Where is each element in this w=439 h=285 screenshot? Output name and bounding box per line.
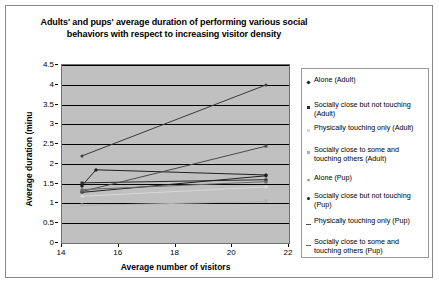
legend-item-label: Alone (Pup): [314, 173, 427, 182]
data-point: [265, 200, 268, 203]
series-line: [82, 176, 266, 193]
series-line: [82, 146, 266, 191]
data-point: [265, 83, 268, 86]
y-tick-mark: [55, 222, 58, 223]
y-tick-label: 3.5: [43, 99, 54, 108]
x-axis-tick-labels: 1416182022: [61, 246, 290, 260]
x-tick-mark: [288, 244, 289, 247]
legend-item[interactable]: Physically touching only (Adult): [305, 123, 427, 132]
plot-area: [61, 64, 290, 244]
legend-item-label: Socially close to some and touching othe…: [314, 145, 427, 163]
y-tick-label: 0: [50, 238, 54, 247]
data-point: [265, 174, 268, 177]
legend-item[interactable]: Socially close but not touching (Adult): [305, 100, 427, 118]
legend-marker-icon: [305, 77, 312, 86]
data-point: [80, 188, 83, 191]
legend-marker-icon: [305, 193, 312, 202]
x-tick-label: 20: [227, 248, 236, 257]
legend-item-label: Physically touching only (Adult): [314, 123, 427, 132]
chart-frame: Adults' and pups' average duration of pe…: [5, 5, 433, 278]
data-point: [80, 204, 83, 207]
legend-marker-icon: [305, 102, 312, 111]
x-tick-mark: [175, 244, 176, 247]
x-axis-title: Average number of visitors: [61, 262, 290, 272]
legend-marker-icon: [305, 239, 312, 248]
legend-marker-icon: ×: [305, 175, 312, 184]
legend-marker-icon: [305, 147, 312, 156]
y-tick-label: 4.5: [43, 60, 54, 69]
data-point: [80, 154, 83, 157]
y-tick-mark: [55, 143, 58, 144]
y-tick-mark: [55, 202, 58, 203]
y-tick-mark: [55, 163, 58, 164]
series-line: [82, 85, 266, 156]
y-tick-label: 1: [50, 198, 54, 207]
data-point: [265, 180, 268, 183]
data-point: [265, 145, 268, 148]
chart-title: Adults' and pups' average duration of pe…: [40, 16, 308, 40]
y-tick-label: 4: [50, 79, 54, 88]
y-tick-mark: [55, 123, 58, 124]
x-tick-mark: [61, 244, 62, 247]
y-tick-mark: [55, 64, 58, 65]
legend-item-label: Socially close but not touching (Adult): [314, 100, 427, 118]
x-tick-mark: [118, 244, 119, 247]
data-point: [265, 185, 268, 188]
legend-item[interactable]: Socially close but not touching (Pup): [305, 191, 427, 209]
y-tick-label: 1.5: [43, 178, 54, 187]
legend-marker-icon: [305, 218, 312, 227]
legend-item-label: Alone (Adult): [314, 75, 427, 84]
legend-item-label: Socially close but not touching (Pup): [314, 191, 427, 209]
y-tick-mark: [55, 104, 58, 105]
y-tick-label: 0.5: [43, 218, 54, 227]
x-tick-label: 18: [170, 248, 179, 257]
legend-item[interactable]: Socially close to some and touching othe…: [305, 145, 427, 163]
chart-legend: Alone (Adult)Socially close but not touc…: [301, 68, 429, 258]
gridline: [62, 243, 289, 244]
y-tick-mark: [55, 84, 58, 85]
x-tick-label: 22: [284, 248, 293, 257]
data-point: [80, 181, 83, 184]
legend-item[interactable]: ×Alone (Pup): [305, 173, 427, 182]
y-axis-title: Average duration (minu: [24, 84, 34, 234]
legend-item[interactable]: Alone (Adult): [305, 75, 427, 84]
legend-item-label: Physically touching only (Pup): [314, 216, 427, 225]
series-line: [82, 201, 266, 205]
legend-marker-icon: [305, 125, 312, 134]
y-tick-mark: [55, 242, 58, 243]
y-tick-label: 2: [50, 158, 54, 167]
series-lines: [62, 65, 289, 243]
y-tick-label: 3: [50, 119, 54, 128]
y-tick-label: 2.5: [43, 139, 54, 148]
y-tick-mark: [55, 183, 58, 184]
legend-item-label: Socially close to some and touching othe…: [314, 237, 427, 255]
data-point: [80, 195, 83, 198]
x-tick-mark: [231, 244, 232, 247]
x-tick-label: 16: [113, 248, 122, 257]
x-tick-label: 14: [57, 248, 66, 257]
legend-item[interactable]: Socially close to some and touching othe…: [305, 237, 427, 255]
legend-item[interactable]: Physically touching only (Pup): [305, 216, 427, 225]
